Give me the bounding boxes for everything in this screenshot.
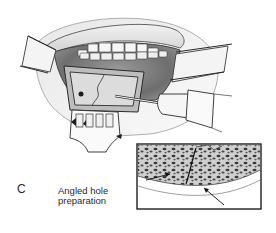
bone-window — [64, 66, 144, 112]
figure-caption: Angled hole preparation — [58, 186, 108, 206]
panel-letter: C — [17, 183, 26, 195]
caption-line-2: preparation — [58, 196, 108, 206]
lower-lip-retractor — [70, 110, 122, 152]
inset-cross-section — [137, 144, 261, 209]
surgical-illustration — [0, 0, 276, 233]
surgical-figure: C Angled hole preparation — [0, 0, 276, 233]
drill-hole — [79, 92, 84, 97]
